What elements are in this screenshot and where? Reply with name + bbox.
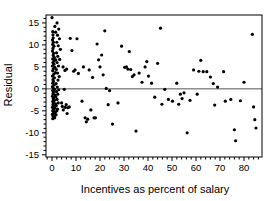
data-point (153, 96, 156, 99)
data-point (186, 131, 189, 134)
y-tick-label: 5 (34, 61, 39, 72)
data-point (56, 71, 59, 74)
x-axis-tick-labels: 01020304050607080 (49, 162, 249, 173)
data-point (66, 112, 69, 115)
data-point (57, 101, 60, 104)
x-tick-label: 40 (143, 162, 154, 173)
data-point (57, 27, 60, 30)
data-point (58, 37, 61, 40)
data-point (91, 76, 94, 79)
data-point (224, 100, 227, 103)
y-tick-label: 0 (34, 83, 39, 94)
data-point (188, 99, 191, 102)
data-point (63, 69, 66, 72)
data-point (69, 37, 72, 40)
data-point (167, 98, 170, 101)
y-tick-label: 15 (28, 17, 39, 28)
data-point (62, 108, 65, 111)
data-point (199, 59, 202, 62)
data-point (56, 34, 59, 37)
data-point (54, 31, 57, 34)
data-point (147, 75, 150, 78)
data-point (103, 29, 106, 32)
data-point (94, 116, 97, 119)
data-point (150, 82, 153, 85)
data-point (70, 49, 73, 52)
data-point (160, 103, 163, 106)
data-point (60, 101, 63, 104)
x-tick-label: 70 (215, 162, 226, 173)
data-point (53, 25, 56, 28)
data-point (98, 65, 101, 68)
data-point (213, 104, 216, 107)
data-point (77, 72, 80, 75)
data-point (212, 82, 215, 85)
data-point (59, 48, 62, 51)
data-point (105, 87, 108, 90)
data-point (57, 44, 60, 47)
y-tick-label: 10 (28, 39, 39, 50)
data-point (242, 81, 245, 84)
data-point (100, 53, 103, 56)
data-point (55, 41, 58, 44)
data-point (182, 91, 185, 94)
data-point (216, 85, 219, 88)
data-point (88, 68, 91, 71)
data-point (89, 108, 92, 111)
x-tick-label: 20 (95, 162, 106, 173)
data-point (54, 95, 57, 98)
data-point (171, 100, 174, 103)
x-tick-label: 30 (119, 162, 130, 173)
data-point (73, 68, 76, 71)
data-point (56, 55, 59, 58)
data-point (233, 128, 236, 131)
data-point (159, 27, 162, 30)
data-point (234, 139, 237, 142)
data-point (50, 16, 53, 19)
y-tick-label: -10 (25, 127, 39, 138)
data-point (126, 67, 129, 70)
data-point (55, 21, 58, 24)
data-point (222, 70, 225, 73)
data-point (197, 70, 200, 73)
data-point (54, 82, 57, 85)
data-point (180, 97, 183, 100)
data-point (97, 58, 100, 61)
data-point (96, 42, 99, 45)
data-point (51, 30, 54, 33)
data-point (55, 68, 58, 71)
data-point (253, 118, 256, 121)
data-point (58, 58, 61, 61)
data-point (55, 61, 58, 64)
data-point (134, 129, 137, 132)
data-point (192, 68, 195, 71)
data-point (107, 103, 110, 106)
data-point (63, 88, 66, 91)
x-tick-label: 80 (239, 162, 250, 173)
data-point (55, 51, 58, 54)
data-point (145, 60, 148, 63)
data-point (205, 70, 208, 73)
x-tick-label: 50 (167, 162, 178, 173)
data-point (239, 99, 242, 102)
data-point (138, 71, 141, 74)
data-point (102, 73, 105, 76)
data-point (251, 33, 254, 36)
x-tick-label: 0 (49, 162, 54, 173)
data-point (254, 126, 257, 129)
y-tick-label: -5 (31, 105, 39, 116)
data-point (209, 75, 212, 78)
figure-background (0, 0, 274, 201)
data-point (58, 75, 61, 78)
data-point (202, 70, 205, 73)
data-point (128, 50, 131, 53)
data-point (177, 103, 180, 106)
data-point (51, 33, 54, 36)
data-point (61, 65, 64, 68)
data-point (56, 78, 59, 81)
data-point (129, 68, 132, 71)
data-point (116, 101, 119, 104)
data-point (56, 85, 59, 88)
data-point (179, 93, 182, 96)
data-point (229, 98, 232, 101)
